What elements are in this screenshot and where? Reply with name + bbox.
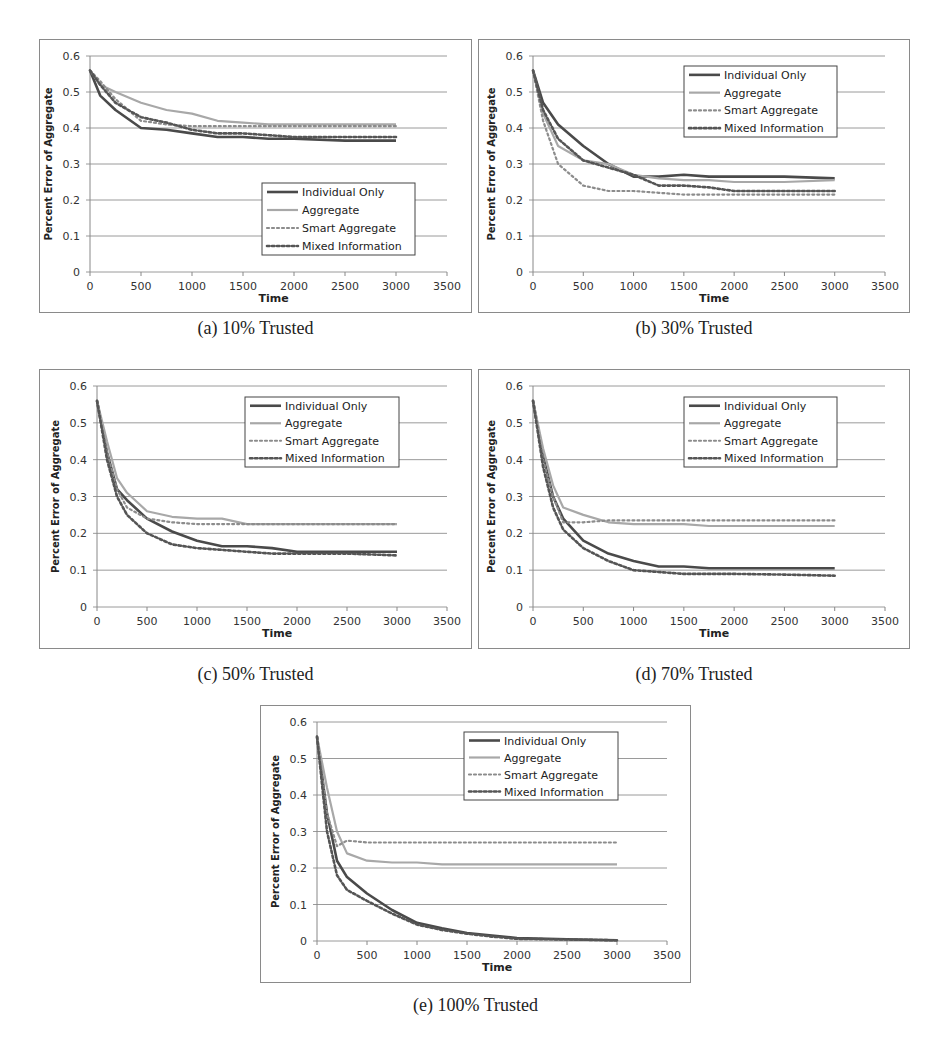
x-tick-label: 3000	[603, 949, 631, 962]
x-tick-label: 1500	[453, 949, 481, 962]
legend: Individual OnlyAggregateSmart AggregateM…	[464, 732, 618, 800]
y-axis-label: Percent Error of Aggregate	[270, 755, 281, 908]
line-chart: 00.10.20.30.40.50.6050010001500200025003…	[0, 0, 939, 1042]
x-tick-label: 0	[314, 949, 321, 962]
y-tick-label: 0.2	[290, 862, 308, 875]
y-tick-label: 0.5	[290, 753, 308, 766]
x-tick-label: 3500	[653, 949, 681, 962]
y-tick-label: 0.6	[290, 716, 308, 729]
legend-label: Individual Only	[504, 735, 587, 748]
x-tick-label: 1000	[403, 949, 431, 962]
x-tick-label: 500	[357, 949, 378, 962]
chart-caption: (e) 100% Trusted	[260, 995, 691, 1016]
y-tick-label: 0	[300, 935, 307, 948]
y-tick-label: 0.1	[290, 899, 308, 912]
y-tick-label: 0.3	[290, 826, 308, 839]
legend-label: Smart Aggregate	[504, 769, 598, 782]
x-axis-label: Time	[482, 961, 512, 974]
x-tick-label: 2500	[553, 949, 581, 962]
y-tick-label: 0.4	[290, 789, 308, 802]
legend-label: Aggregate	[504, 752, 562, 765]
legend-label: Mixed Information	[504, 786, 604, 799]
